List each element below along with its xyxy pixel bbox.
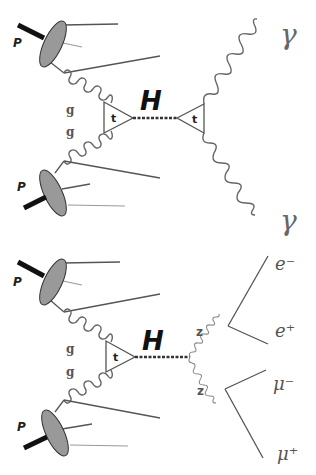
proton-beam-icon — [24, 437, 47, 448]
top-loop-decay — [177, 104, 204, 133]
top-quark-label: t — [192, 113, 197, 126]
proton-bottom-1: P — [17, 161, 160, 219]
parton-line — [55, 161, 64, 173]
z-label-bottom: z — [197, 384, 204, 398]
proton-label: P — [13, 36, 22, 50]
photon-top-line — [204, 19, 257, 104]
spectator-line — [68, 205, 125, 206]
gluon-label-top: g — [66, 103, 75, 117]
spectator-line — [70, 445, 128, 446]
proton-beam-icon — [18, 262, 44, 276]
top-quark-label: t — [113, 351, 118, 364]
spectator-line — [62, 184, 90, 189]
proton-label: P — [17, 180, 26, 194]
proton-blob-icon — [36, 407, 73, 460]
proton-beam-icon — [24, 197, 46, 208]
muon-plus-label: μ⁺ — [277, 443, 298, 464]
proton-beam-icon — [18, 25, 44, 38]
gluon-top-line — [64, 309, 112, 342]
diagram-h-to-gamma-gamma: P g g t H t γ γ P — [13, 18, 297, 237]
muon-plus-line — [225, 389, 263, 458]
spectator-line — [64, 161, 160, 178]
higgs-label: H — [142, 326, 164, 356]
parton-line — [50, 62, 64, 73]
higgs-label: H — [140, 86, 162, 116]
proton-top-1: P — [13, 18, 160, 73]
spectator-line — [64, 294, 160, 312]
spectator-line — [62, 424, 92, 429]
proton-blob-icon — [34, 167, 71, 220]
diagram-h-to-zz-to-4l: P g g t H z z e⁻ e⁺ μ⁻ μ⁺ — [13, 253, 298, 464]
gluon-label-bottom: g — [66, 125, 75, 139]
top-loop-production — [106, 341, 135, 372]
muon-minus-label: μ⁻ — [273, 373, 294, 394]
gluon-top-line — [64, 70, 112, 103]
gluon-label-top: g — [66, 342, 75, 356]
positron-label: e⁺ — [275, 320, 295, 341]
photon-bottom-line — [203, 133, 255, 215]
feynman-diagrams: P g g t H t γ γ P — [0, 0, 316, 475]
proton-bottom-2: P — [17, 400, 160, 459]
positron-line — [228, 326, 268, 344]
electron-line — [228, 256, 268, 326]
spectator-line — [64, 400, 160, 418]
electron-label: e⁻ — [275, 253, 295, 274]
gluon-label-bottom: g — [66, 365, 75, 379]
muon-minus-line — [225, 370, 266, 389]
proton-label: P — [13, 275, 22, 289]
photon-label-top: γ — [280, 18, 297, 51]
photon-label-bottom: γ — [280, 204, 297, 237]
proton-label: P — [17, 420, 26, 434]
parton-line — [50, 300, 64, 312]
proton-top-2: P — [13, 256, 160, 312]
spectator-line — [63, 24, 118, 25]
z-label-top: z — [196, 325, 203, 339]
z-boson-top-line — [189, 314, 219, 357]
spectator-line — [63, 262, 120, 263]
top-quark-label: t — [111, 112, 116, 125]
top-loop-production — [104, 102, 133, 133]
parton-line — [55, 400, 64, 412]
spectator-line — [64, 56, 160, 73]
